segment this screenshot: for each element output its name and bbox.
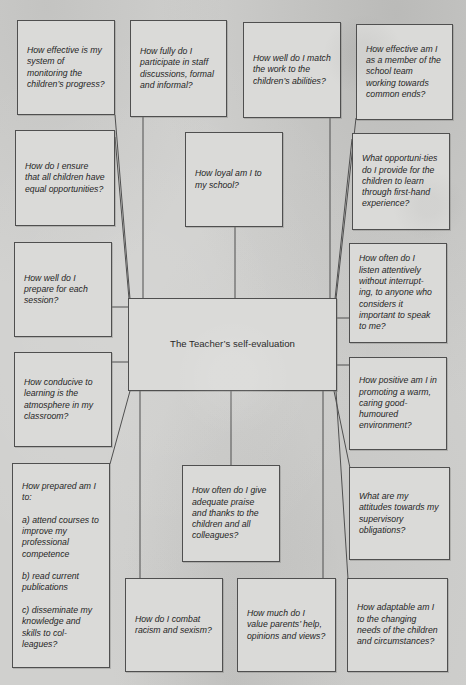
question-box-match-work: How well do I match the work to the chil…	[243, 22, 341, 118]
question-box-monitoring-progress: How effective is my system of monitoring…	[17, 20, 115, 115]
question-box-staff-discussions: How fully do I participate in staff disc…	[130, 20, 227, 117]
scanned-diagram-page: The Teacher’s self-evaluationHow effecti…	[0, 0, 466, 685]
connector	[115, 137, 129, 299]
connector	[115, 115, 130, 299]
question-box-school-team: How effective am I as a member of the sc…	[356, 24, 453, 120]
connector	[110, 391, 130, 464]
question-box-supervisory-obligations: What are my attitudes towards my supervi…	[349, 467, 450, 560]
question-box-equal-opportunities: How do I ensure that all children have e…	[15, 130, 115, 226]
question-box-loyal: How loyal am I to my school?	[185, 132, 283, 227]
question-box-classroom-atmosphere: How conducive to learning is the atmosph…	[14, 352, 112, 447]
question-box-praise-thanks: How often do I give adequate praise and …	[182, 465, 280, 562]
question-box-first-hand-experience: What opportuni-ties do I provide for the…	[352, 133, 450, 230]
question-box-racism-sexism: How do I combat racism and sexism?	[125, 578, 223, 672]
question-box-positive-environment: How positive am I in promoting a warm, c…	[349, 357, 447, 450]
question-box-how-prepared: How prepared am I to: a) attend courses …	[12, 463, 110, 668]
center-box: The Teacher’s self-evaluation	[128, 298, 337, 391]
question-box-value-parents: How much do I value parents’ help, opini…	[237, 578, 336, 672]
connector	[336, 391, 348, 579]
question-box-prepare-session: How well do I prepare for each session?	[14, 242, 112, 337]
question-box-adaptable: How adaptable am I to the changing needs…	[347, 578, 448, 672]
question-box-listen-attentively: How often do I listen attentively withou…	[349, 243, 447, 343]
